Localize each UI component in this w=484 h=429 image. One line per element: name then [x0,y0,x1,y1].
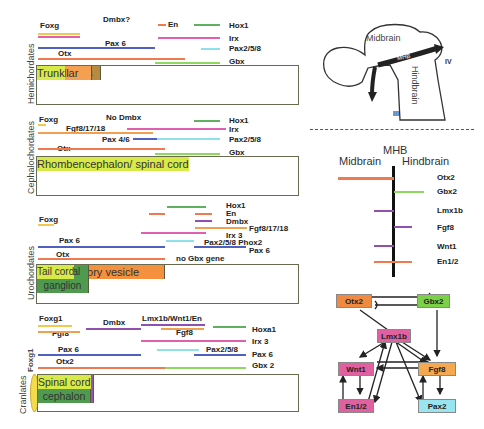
bar-en-right [195,213,212,215]
dashed-divider [310,129,474,130]
label-en: En [168,20,178,29]
bar-pax6b [194,354,246,356]
label-foxg: Foxg [39,115,58,124]
label-hoxa1: Hoxa1 [252,325,276,334]
gene-otx2: Otx2 [437,173,455,182]
bar-fgf8b [161,328,204,330]
label-irx: Irx [229,34,239,43]
side-label-hemichordates: Hemichordates [26,43,36,104]
bar-foxg-yellow [38,33,80,35]
bar-dmbx [86,328,141,330]
bar-hox1 [194,24,220,26]
bar-hoxa1 [213,326,246,328]
bar-pax6 [38,354,141,356]
bar-hox1 [167,206,206,208]
label-pax46: Pax 4/6 [102,135,130,144]
cephalochordate-body: Sensory vesicle Rhombencephalon/ spinal … [36,156,299,196]
region-tail-cord: Tail cord [37,265,74,279]
label-foxg: Foxg [40,21,59,30]
bar-en-left [149,213,165,215]
bar-foxg [38,124,46,126]
node-wnt1: Wnt1 [338,362,374,376]
craniate-body: Prosen- cephalon Mesen- cephalon MHB/ Is… [37,374,299,412]
label-pax6b: Pax 6 [249,246,270,255]
brain-label-iii: III [393,110,399,117]
node-otx2: Otx2 [336,294,372,308]
gene-fgf8: Fgf8 [437,223,454,232]
node-gbx2: Gbx2 [417,294,450,308]
label-dmbx: Dmbx [226,217,248,226]
bar-hox1 [194,120,220,122]
node-fgf8: Fgf8 [418,362,456,376]
bar-irx3 [141,340,246,342]
label-no-gbx: no Gbx gene [176,254,224,263]
bar-foxg [38,224,54,226]
bar-gbx [155,62,220,64]
node-lmx1b: Lmx1b [377,329,411,343]
label-otx2: Otx2 [56,357,74,366]
bar-pax258 [201,48,220,50]
label-pax258: Pax2/5/8 [229,135,261,144]
label-irx3: Irx 3 [252,337,268,346]
region-spinal-cord: Spinal cord [38,375,91,389]
gene-wnt1: Wnt1 [437,242,457,251]
bar-en12 [374,261,412,263]
bar-foxg1 [38,325,72,327]
bar-wnt1 [374,245,394,247]
label-pax6: Pax 6 [58,345,79,354]
midbrain-heading: Midbrain [339,155,381,167]
urochordate-body: Sensory vesicle Neck Visceral ganglion T… [36,264,299,304]
bar-pax6b [194,246,246,248]
label-irx: Irx [229,125,239,134]
bar-otx2 [38,367,165,369]
bar-gbx2 [165,367,246,369]
label-fgf: Fgf8/17/18 [249,224,288,233]
label-no-dmbx: No Dmbx [106,113,141,122]
bar-pax46 [133,138,157,140]
bar-irx [127,128,226,130]
foxg1-vertical-label: Foxg1 [26,348,35,372]
label-foxg1: Foxg1 [39,314,63,323]
bar-pax258 [166,240,194,242]
brain-label-hindbrain: Hindbrain [410,66,420,105]
hemichordate-body: Proboscis Collar Trunk [36,65,299,105]
bar-pax6 [38,246,165,248]
side-label-urochordates: Urochordates [26,246,36,300]
bar-fgf [38,132,153,134]
label-hox1: Hox1 [229,21,249,30]
label-dmbx: Dmbx [103,318,125,327]
gene-gbx2: Gbx2 [437,187,457,196]
label-foxg: Foxg [39,215,58,224]
label-pax258: Pax2/5/8 [206,345,238,354]
bar-fgf8 [394,226,412,228]
bar-otx [38,58,185,60]
bar-pax6 [38,47,155,49]
label-gbx2: Gbx 2 [252,361,274,370]
side-label-cephalochordates: Cephalochordates [26,121,36,194]
brain-label-midbrain: Midbrain [366,33,401,43]
bar-otx [38,148,165,150]
brain-label-iv: IV [445,58,452,65]
hindbrain-heading: Hindbrain [402,155,449,167]
gene-lmx1b: Lmx1b [437,206,463,215]
label-hox1: Hox1 [229,116,249,125]
side-label-craniates: Cranlates [18,375,28,414]
bar-fgf [195,227,247,229]
bar-pax258 [157,349,199,351]
bar-irx [158,37,220,39]
bar-gbx [155,153,220,155]
region-trunk: Trunk [37,66,65,80]
bar-foxg-pink [38,36,80,38]
bar-gbx2 [394,191,424,193]
bar-dmbx [195,220,212,222]
bar-otx [38,258,165,260]
bar-pax258 [157,138,220,140]
bar-lmx [141,324,205,326]
label-pax258: Pax2/5/8 [229,44,261,53]
bar-otx2 [338,177,394,180]
label-pax6b: Pax 6 [252,350,273,359]
label-lmx: Lmx1b/Wnt1/En [142,314,202,323]
bar-en [158,24,166,26]
bar-lmx1b [374,210,394,212]
label-dmbx: Dmbx? [103,15,130,24]
